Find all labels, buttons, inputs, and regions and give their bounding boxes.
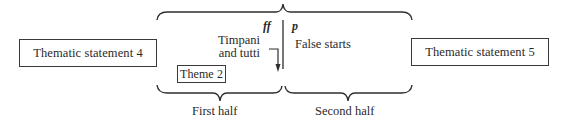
- tutti-line: and tutti: [200, 47, 260, 60]
- first-half-brace: [157, 85, 282, 101]
- thematic-statement-4-box: Thematic statement 4: [19, 39, 157, 67]
- thematic-statement-5-label: Thematic statement 5: [425, 45, 535, 60]
- thematic-statement-5-box: Thematic statement 5: [411, 38, 549, 66]
- theme-2-box: Theme 2: [177, 65, 226, 83]
- arrowhead-icon: [276, 64, 281, 72]
- diagram-canvas: Thematic statement 4 Thematic statement …: [0, 0, 570, 125]
- timpani-tutti-label: Timpani and tutti: [200, 34, 260, 60]
- second-half-brace: [285, 85, 412, 101]
- fortissimo-marking: ff: [263, 19, 271, 34]
- thematic-statement-4-label: Thematic statement 4: [33, 46, 143, 61]
- top-brace: [157, 4, 412, 20]
- piano-marking: p: [292, 19, 298, 34]
- first-half-label: First half: [192, 105, 237, 118]
- false-starts-label: False starts: [295, 38, 351, 51]
- second-half-label: Second half: [315, 105, 374, 118]
- down-arrow-icon: [269, 49, 278, 66]
- theme-2-label: Theme 2: [180, 67, 223, 82]
